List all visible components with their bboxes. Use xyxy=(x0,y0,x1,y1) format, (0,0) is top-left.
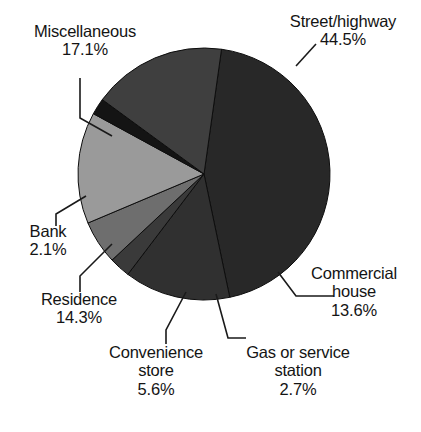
pie-label-miscellaneous-value: 17.1% xyxy=(6,40,164,58)
pie-label-gas-or-service-station-name-line2: station xyxy=(228,361,368,379)
pie-label-commercial-house-name-line2: house xyxy=(290,282,418,300)
pie-slice-group xyxy=(78,48,330,300)
pie-label-bank: Bank 2.1% xyxy=(2,222,94,259)
pie-chart: Street/highway 44.5% Miscellaneous 17.1%… xyxy=(0,0,421,432)
pie-label-street-highway-value: 44.5% xyxy=(268,30,418,48)
pie-label-bank-value: 2.1% xyxy=(2,240,94,258)
pie-label-street-highway: Street/highway 44.5% xyxy=(268,12,418,49)
pie-label-commercial-house-value: 13.6% xyxy=(290,301,418,319)
pie-label-convenience-store-name: Convenience xyxy=(92,343,220,361)
pie-label-miscellaneous-name: Miscellaneous xyxy=(6,22,164,40)
pie-label-commercial-house-name: Commercial xyxy=(290,264,418,282)
leader-line-convenience xyxy=(166,292,186,344)
leader-line-gas xyxy=(216,294,246,338)
pie-label-residence-value: 14.3% xyxy=(14,308,144,326)
pie-label-gas-or-service-station-name: Gas or service xyxy=(228,343,368,361)
pie-label-convenience-store: Convenience store 5.6% xyxy=(92,343,220,398)
pie-label-gas-or-service-station: Gas or service station 2.7% xyxy=(228,343,368,398)
pie-label-bank-name: Bank xyxy=(2,222,94,240)
pie-label-miscellaneous: Miscellaneous 17.1% xyxy=(6,22,164,59)
pie-label-convenience-store-name-line2: store xyxy=(92,361,220,379)
pie-label-residence-name: Residence xyxy=(14,290,144,308)
pie-label-street-highway-name: Street/highway xyxy=(268,12,418,30)
pie-label-commercial-house: Commercial house 13.6% xyxy=(290,264,418,319)
pie-slice-street-highway[interactable] xyxy=(204,49,330,297)
pie-label-residence: Residence 14.3% xyxy=(14,290,144,327)
pie-label-gas-or-service-station-value: 2.7% xyxy=(228,380,368,398)
pie-label-convenience-store-value: 5.6% xyxy=(92,380,220,398)
